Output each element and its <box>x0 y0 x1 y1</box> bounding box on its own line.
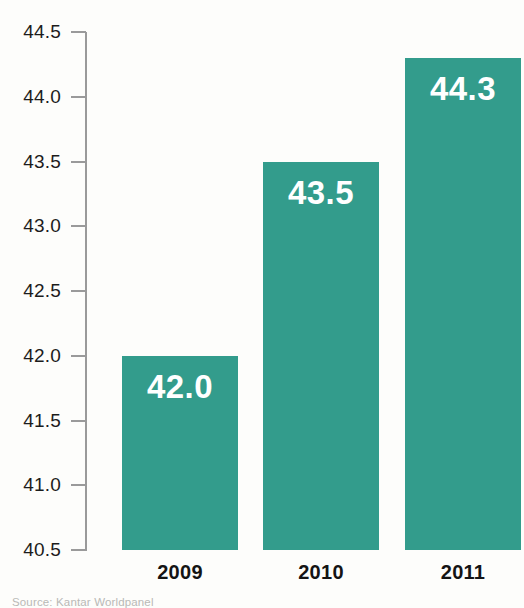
y-axis-tick <box>71 355 86 357</box>
y-axis-tick-label: 43.5 <box>0 152 61 171</box>
y-axis-tick-label: 43.0 <box>0 216 61 235</box>
y-axis-tick <box>71 161 86 163</box>
x-axis-label-2009: 2009 <box>122 562 238 582</box>
x-axis-label-2011: 2011 <box>405 562 521 582</box>
y-axis-tick <box>71 96 86 98</box>
y-axis-tick <box>71 31 86 33</box>
bar-value-label: 44.3 <box>405 72 521 105</box>
bar-value-label: 42.0 <box>122 370 238 403</box>
bar-2011: 44.3 <box>405 58 521 550</box>
y-axis-tick-label: 40.5 <box>0 540 61 559</box>
x-axis-label-2010: 2010 <box>263 562 379 582</box>
y-axis-tick-label: 42.5 <box>0 281 61 300</box>
bar-2009: 42.0 <box>122 356 238 550</box>
y-axis-tick-label: 44.0 <box>0 87 61 106</box>
bar-chart-figure: 44.544.043.543.042.542.041.541.040.5 42.… <box>0 0 524 608</box>
y-axis-tick-label: 41.0 <box>0 475 61 494</box>
source-note: Source: Kantar Worldpanel <box>12 596 154 608</box>
bar-value-label: 43.5 <box>263 176 379 209</box>
y-axis-tick <box>71 420 86 422</box>
y-axis-tick <box>71 484 86 486</box>
y-axis-tick-label: 42.0 <box>0 346 61 365</box>
y-axis-tick <box>71 549 86 551</box>
y-axis-tick-label: 44.5 <box>0 22 61 41</box>
y-axis-tick <box>71 290 86 292</box>
plot-area: 42.043.544.3 <box>85 32 524 550</box>
y-axis-tick <box>71 225 86 227</box>
y-axis-tick-label: 41.5 <box>0 411 61 430</box>
bar-2010: 43.5 <box>263 162 379 551</box>
